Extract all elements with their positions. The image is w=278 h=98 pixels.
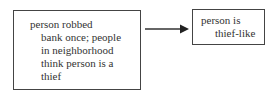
node-text-line: person is	[201, 14, 240, 27]
arrowhead-icon	[180, 25, 189, 34]
node-text-line: thief-like	[215, 27, 255, 40]
effect-node: person is thief-like	[192, 9, 265, 45]
